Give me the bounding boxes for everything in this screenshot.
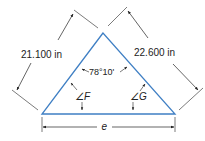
left-dimension-line-upper (58, 14, 73, 40)
right-extension-top (108, 7, 127, 26)
right-dimension-line-lower (173, 64, 198, 90)
right-extension-bottom (179, 88, 203, 110)
angle-g-label: ∠G (130, 91, 147, 102)
left-extension-top (74, 10, 98, 28)
right-side-label: 22.600 in (134, 47, 175, 58)
left-dimension-line-lower (17, 63, 31, 90)
left-extension-bottom (12, 90, 38, 110)
angle-g-arrow-up (140, 84, 145, 91)
apex-angle-label: 78°10' (89, 67, 115, 77)
angle-f-arrow-up (71, 83, 77, 90)
apex-angle-arrow-left (82, 69, 89, 72)
left-side-label: 21.100 in (21, 49, 62, 60)
bottom-side-label: e (102, 121, 108, 132)
apex-angle-arrow-right (120, 67, 127, 72)
angle-f-label: ∠F (75, 91, 91, 102)
triangle-diagram: 21.100 in 22.600 in 78°10' ∠F ∠G e (0, 0, 205, 141)
right-dimension-line-upper (128, 11, 148, 38)
